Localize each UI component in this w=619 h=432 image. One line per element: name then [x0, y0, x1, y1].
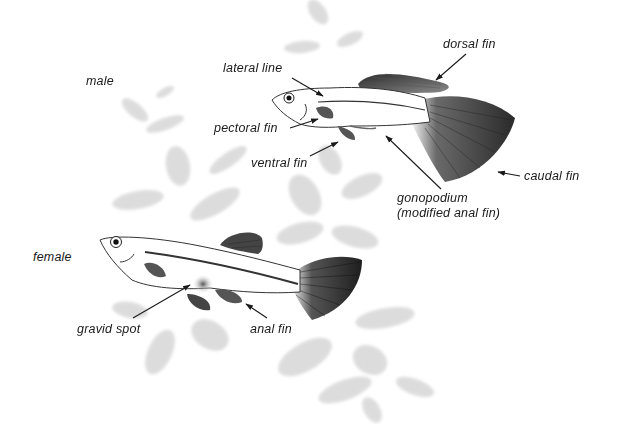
male-ventral-fin — [338, 126, 355, 140]
arrow-caudal-fin — [498, 172, 520, 176]
label-ventral-fin: ventral fin — [251, 156, 307, 171]
label-caudal-fin: caudal fin — [524, 169, 580, 184]
arrow-dorsal-fin — [436, 54, 466, 80]
arrow-anal-fin — [246, 304, 267, 318]
female-dorsal-fin — [220, 232, 263, 254]
male-body — [272, 87, 430, 127]
label-gravid-spot: gravid spot — [77, 322, 140, 337]
female-caudal-fin — [290, 257, 362, 320]
arrow-gravid-spot — [133, 285, 190, 318]
label-pectoral-fin: pectoral fin — [214, 121, 278, 136]
female-ventral-fin — [187, 294, 210, 310]
diagram-illustration — [0, 0, 619, 432]
label-lateral-line: lateral line — [223, 61, 282, 76]
female-anal-fin — [215, 290, 242, 304]
label-female: female — [33, 250, 72, 265]
gravid-spot — [192, 274, 214, 294]
male-fish — [272, 74, 515, 182]
label-male: male — [86, 74, 114, 89]
guppy-diagram: male lateral line dorsal fin pectoral fi… — [0, 0, 619, 432]
label-dorsal-fin: dorsal fin — [443, 37, 496, 52]
label-anal-fin: anal fin — [250, 322, 292, 337]
label-gonopodium: gonopodium (modified anal fin) — [397, 191, 500, 221]
